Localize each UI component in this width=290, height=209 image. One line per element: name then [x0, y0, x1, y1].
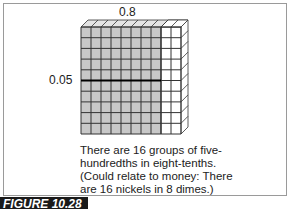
figure-tag: FIGURE 10.28: [0, 197, 88, 209]
caption-line: There are 16 groups of five-: [80, 144, 285, 157]
caption: There are 16 groups of five- hundredths …: [80, 144, 285, 196]
caption-line: are 16 nickels in 8 dimes.): [80, 183, 285, 196]
caption-line: hundredths in eight-tenths.: [80, 157, 285, 170]
caption-line: (Could relate to money: There: [80, 170, 285, 183]
